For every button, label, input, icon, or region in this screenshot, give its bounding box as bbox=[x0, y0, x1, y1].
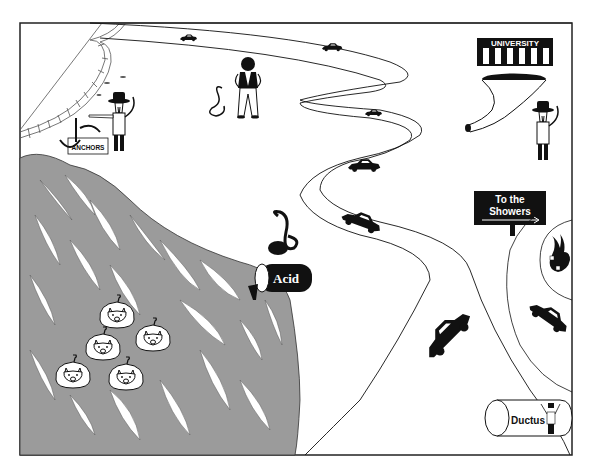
anchors-label: ANCHORS bbox=[72, 144, 106, 151]
acid-label: Acid bbox=[273, 271, 300, 286]
showers-label-line2: Showers bbox=[489, 206, 531, 217]
illustration-canvas: ANCHORS Acid bbox=[0, 0, 592, 466]
showers-label-line1: To the bbox=[495, 194, 525, 205]
university-building: UNIVERSITY bbox=[477, 38, 553, 66]
ductus-pipe: Ductus bbox=[485, 400, 572, 436]
university-label: UNIVERSITY bbox=[491, 39, 540, 48]
ductus-label: Ductus bbox=[511, 415, 545, 426]
